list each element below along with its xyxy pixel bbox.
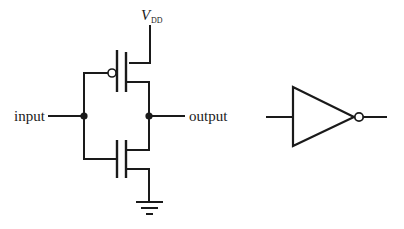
nmos-gate-wire — [84, 116, 117, 159]
pmos-transistor — [84, 50, 126, 116]
input-label: input — [14, 108, 46, 124]
vdd-label-subscript: DD — [151, 16, 163, 25]
not-gate-triangle-icon — [293, 87, 354, 146]
input-junction-dot — [80, 112, 87, 119]
vdd-label: V DD — [141, 7, 163, 25]
ground-icon — [136, 202, 163, 214]
pmos-gate-bubble-icon — [108, 69, 116, 77]
nmos-transistor — [84, 116, 126, 178]
pmos-gate-wire — [84, 73, 108, 116]
output-junction-dot — [145, 112, 152, 119]
cmos-inverter-diagram: V DD in — [0, 0, 404, 229]
cmos-schematic: V DD in — [14, 7, 228, 214]
pmos-drain-wire — [127, 82, 149, 116]
vdd-wire — [129, 25, 150, 63]
output-label: output — [189, 108, 228, 124]
nmos-source-wire — [127, 169, 149, 202]
nmos-drain-wire — [127, 116, 149, 150]
not-gate-bubble-icon — [355, 113, 363, 121]
not-gate-symbol — [266, 87, 387, 146]
